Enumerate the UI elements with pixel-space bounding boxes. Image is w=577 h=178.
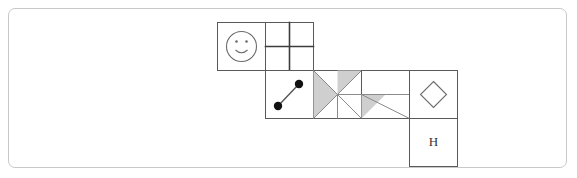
grid-stage: H [0, 0, 577, 178]
cell-triangle-shaded[interactable] [362, 71, 410, 119]
letter-h-label: H [429, 134, 438, 149]
cell-diamond[interactable] [410, 71, 458, 119]
cell-two-dots[interactable] [266, 71, 314, 119]
cell-border [410, 71, 458, 119]
cell-border [218, 23, 266, 71]
cell-smiley[interactable] [218, 23, 266, 71]
hourglass-shaded-icon [314, 71, 362, 119]
cell-quadrant-cross[interactable] [266, 23, 314, 71]
cell-hourglass-shaded[interactable] [314, 71, 362, 119]
cell-letter-h[interactable]: H [410, 119, 458, 167]
